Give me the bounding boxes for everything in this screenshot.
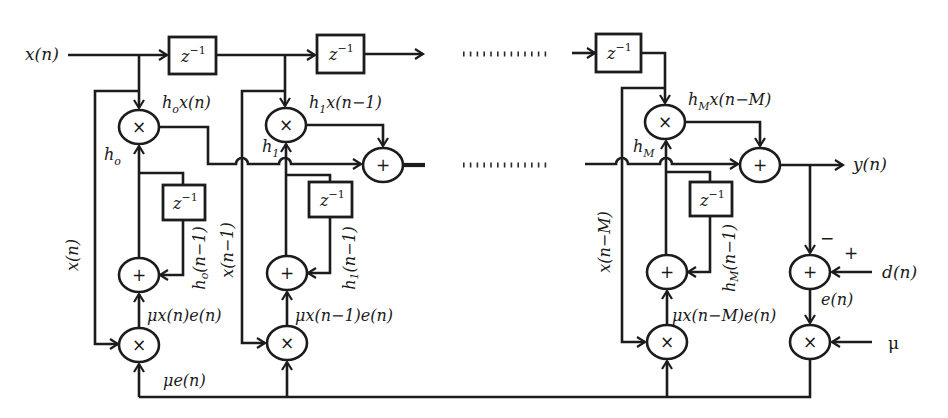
add-icon: + <box>803 262 817 282</box>
update-label: μx(n−M)e(n) <box>672 306 776 325</box>
feedback-input-label: x(n−1) <box>218 222 237 277</box>
add-icon: + <box>132 265 146 285</box>
previous-weight-line <box>160 220 183 275</box>
multiply-icon: × <box>132 117 146 137</box>
product-label: h1x(n−1) <box>309 93 382 116</box>
error-label: e(n) <box>821 290 853 309</box>
weight-label: hM <box>633 137 655 160</box>
multiply-icon: × <box>660 332 674 352</box>
multiply-icon: × <box>803 332 817 352</box>
lms-adaptive-filter-diagram: x(n) z−1 z−1 z−1 × hox(n) ho z−1 + μx(n)… <box>0 0 948 418</box>
feedback-input-label: x(n) <box>63 239 82 271</box>
feedback-input-label: x(n−M) <box>595 211 614 273</box>
tap-1: × h1x(n−1) + h1 z−1 + μx(n−1)e(n) × x(n−… <box>218 55 549 397</box>
delay-line: x(n) z−1 z−1 z−1 <box>25 34 641 74</box>
scaled-error-bus <box>139 359 810 397</box>
add-icon: + <box>660 262 674 282</box>
update-label: μx(n−1)e(n) <box>295 306 393 325</box>
weight-to-delay-line <box>666 172 710 182</box>
tap-input-line <box>641 53 665 103</box>
step-size-label: μ <box>888 333 899 353</box>
previous-weight-line <box>688 216 710 272</box>
multiply-icon: × <box>279 115 293 135</box>
multiply-icon: × <box>132 335 146 355</box>
previous-weight-line <box>308 217 330 273</box>
add-icon: + <box>753 155 767 175</box>
product-output-line <box>306 125 383 146</box>
previous-weight-label: hM(n−1) <box>720 224 742 292</box>
add-icon: + <box>376 155 390 175</box>
product-output-line <box>159 127 361 164</box>
input-label: x(n) <box>25 44 59 64</box>
scaled-error-label: μe(n) <box>163 371 206 390</box>
product-label: hMx(n−M) <box>688 90 771 113</box>
weight-to-delay-line <box>139 173 183 185</box>
plus-sign: + <box>844 243 858 263</box>
previous-weight-label: h1(n−1) <box>340 226 362 290</box>
desired-label: d(n) <box>882 262 917 282</box>
diagram-svg: x(n) z−1 z−1 z−1 × hox(n) ho z−1 + μx(n)… <box>0 0 948 418</box>
add-icon: + <box>280 263 294 283</box>
accumulator-input-line <box>585 158 738 164</box>
tap-m: × hMx(n−M) + hM z−1 + μx(n−M)e(n) × x(n−… <box>585 53 780 397</box>
multiply-icon: × <box>280 333 294 353</box>
output-label: y(n) <box>852 154 887 174</box>
multiply-icon: × <box>658 112 672 132</box>
previous-weight-label: ho(n−1) <box>190 226 212 289</box>
weight-label: ho <box>104 145 121 168</box>
product-label: hox(n) <box>162 93 211 116</box>
product-output-line <box>685 122 760 146</box>
update-label: μx(n)e(n) <box>147 306 221 325</box>
minus-sign: − <box>820 228 834 248</box>
error-section: y(n) − + + d(n) e(n) × μ <box>139 154 917 397</box>
